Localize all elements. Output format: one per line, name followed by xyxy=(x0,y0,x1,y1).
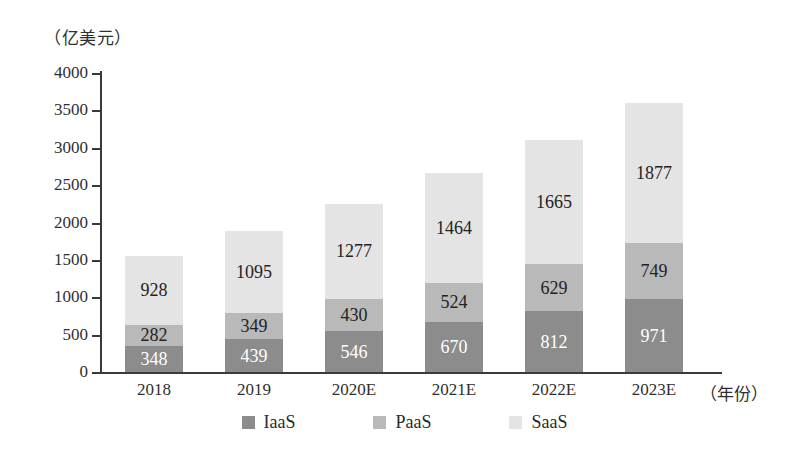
bar-group[interactable]: 1464524670 xyxy=(425,173,483,372)
bar-value-label: 670 xyxy=(441,338,468,356)
y-tick-mark xyxy=(92,110,100,112)
legend-item-paas[interactable]: PaaS xyxy=(373,412,431,433)
bar-segment-saas[interactable]: 928 xyxy=(125,256,183,325)
legend-label: SaaS xyxy=(531,412,567,433)
legend-item-saas[interactable]: SaaS xyxy=(509,412,567,433)
y-tick-mark xyxy=(92,223,100,225)
bar-segment-saas[interactable]: 1095 xyxy=(225,231,283,313)
y-tick-mark xyxy=(92,148,100,150)
bar-value-label: 1665 xyxy=(536,193,572,211)
x-axis-label: 2019 xyxy=(225,380,283,400)
chart-legend: IaaSPaaSSaaS xyxy=(0,412,809,433)
bar-group[interactable]: 1665629812 xyxy=(525,140,583,372)
bar-value-label: 928 xyxy=(141,281,168,299)
y-tick-label: 2500 xyxy=(54,175,88,195)
bar-segment-iaas[interactable]: 348 xyxy=(125,346,183,372)
bar-value-label: 812 xyxy=(541,333,568,351)
bar-segment-saas[interactable]: 1665 xyxy=(525,140,583,264)
bar-segment-iaas[interactable]: 971 xyxy=(625,299,683,372)
bar-value-label: 971 xyxy=(641,327,668,345)
y-tick-label: 4000 xyxy=(54,63,88,83)
bar-value-label: 349 xyxy=(241,317,268,335)
bar-segment-paas[interactable]: 282 xyxy=(125,325,183,346)
legend-item-iaas[interactable]: IaaS xyxy=(242,412,296,433)
y-tick-label: 1000 xyxy=(54,287,88,307)
stacked-bar-chart: （亿美元） 05001000150020002500300035004000 9… xyxy=(0,0,809,459)
bar-segment-paas[interactable]: 749 xyxy=(625,243,683,299)
bar-segment-paas[interactable]: 629 xyxy=(525,264,583,311)
bar-value-label: 439 xyxy=(241,347,268,365)
x-axis-label: 2022E xyxy=(525,380,583,400)
x-axis-title: （年份） xyxy=(700,380,768,405)
bar-group[interactable]: 1277430546 xyxy=(325,204,383,372)
x-axis-line xyxy=(100,372,722,374)
y-tick-mark xyxy=(92,372,100,374)
bar-segment-iaas[interactable]: 812 xyxy=(525,311,583,372)
bar-value-label: 430 xyxy=(341,306,368,324)
legend-swatch-icon xyxy=(509,416,522,429)
x-axis-label: 2020E xyxy=(325,380,383,400)
y-tick-mark xyxy=(92,335,100,337)
legend-swatch-icon xyxy=(373,416,386,429)
y-tick-label: 3500 xyxy=(54,100,88,120)
x-axis-label: 2018 xyxy=(125,380,183,400)
bar-segment-paas[interactable]: 430 xyxy=(325,299,383,331)
bar-segment-iaas[interactable]: 439 xyxy=(225,339,283,372)
bar-value-label: 348 xyxy=(141,350,168,368)
bar-segment-saas[interactable]: 1877 xyxy=(625,103,683,243)
bar-value-label: 1877 xyxy=(636,164,672,182)
bar-segment-iaas[interactable]: 546 xyxy=(325,331,383,372)
bar-value-label: 546 xyxy=(341,343,368,361)
y-tick-mark xyxy=(92,73,100,75)
bar-segment-saas[interactable]: 1464 xyxy=(425,173,483,282)
y-tick-label: 3000 xyxy=(54,138,88,158)
x-axis-label: 2023E xyxy=(625,380,683,400)
y-tick-mark xyxy=(92,297,100,299)
bar-value-label: 629 xyxy=(541,279,568,297)
bar-value-label: 1095 xyxy=(236,263,272,281)
legend-label: IaaS xyxy=(264,412,296,433)
x-axis-label: 2021E xyxy=(425,380,483,400)
bar-group[interactable]: 1877749971 xyxy=(625,103,683,372)
y-tick-label: 2000 xyxy=(54,213,88,233)
bar-segment-iaas[interactable]: 670 xyxy=(425,322,483,372)
bar-group[interactable]: 1095349439 xyxy=(225,231,283,372)
bar-value-label: 282 xyxy=(141,326,168,344)
bar-segment-saas[interactable]: 1277 xyxy=(325,204,383,299)
y-tick-label: 500 xyxy=(63,325,89,345)
plot-area: 05001000150020002500300035004000 9282823… xyxy=(100,73,720,372)
y-tick-mark xyxy=(92,260,100,262)
legend-swatch-icon xyxy=(242,416,255,429)
y-axis-unit-label: （亿美元） xyxy=(44,24,132,49)
bar-segment-paas[interactable]: 349 xyxy=(225,313,283,339)
bar-group[interactable]: 928282348 xyxy=(125,256,183,372)
legend-label: PaaS xyxy=(395,412,431,433)
bar-value-label: 524 xyxy=(441,293,468,311)
bar-value-label: 1464 xyxy=(436,219,472,237)
y-tick-label: 1500 xyxy=(54,250,88,270)
y-tick-mark xyxy=(92,185,100,187)
y-tick-label: 0 xyxy=(80,362,89,382)
bar-value-label: 1277 xyxy=(336,242,372,260)
bar-value-label: 749 xyxy=(641,262,668,280)
bar-segment-paas[interactable]: 524 xyxy=(425,283,483,322)
